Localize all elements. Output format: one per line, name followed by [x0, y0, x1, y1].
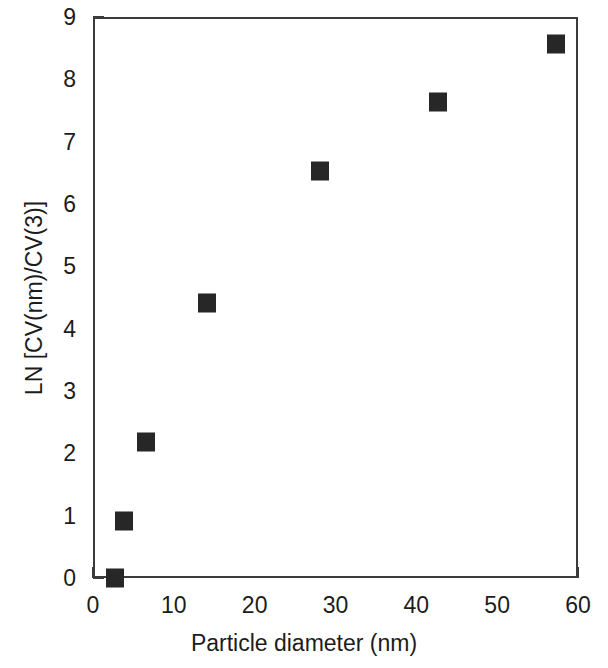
x-axis-tick-label: 30: [323, 592, 349, 619]
x-axis-tick-label: 50: [484, 592, 510, 619]
data-point: [429, 92, 447, 111]
data-point: [115, 511, 133, 530]
y-axis-tick-label: 7: [0, 128, 76, 155]
x-axis-tick-label: 0: [87, 592, 100, 619]
x-axis-tick-label: 60: [565, 592, 591, 619]
y-axis-tick-label: 1: [0, 502, 76, 529]
y-axis-tick-label: 3: [0, 378, 76, 405]
x-axis-tick-label: 40: [404, 592, 430, 619]
x-axis-title: Particle diameter (nm): [0, 630, 608, 657]
data-point: [198, 294, 216, 313]
data-point: [137, 433, 155, 452]
plot-area: [93, 17, 578, 578]
y-axis-title: LN [CV(nm)/CV(3)]: [21, 201, 48, 395]
scatter-chart-figure: LN [CV(nm)/CV(3)] 0123456789 01020304050…: [0, 0, 608, 668]
y-axis-tick-label: 0: [0, 565, 76, 592]
y-axis-tick-label: 4: [0, 315, 76, 342]
y-axis-tick-label: 6: [0, 191, 76, 218]
data-point: [547, 34, 565, 53]
y-axis-tick-label: 2: [0, 440, 76, 467]
x-axis-tick-label: 20: [242, 592, 268, 619]
x-axis-tick-label: 10: [161, 592, 187, 619]
y-axis-tick-label: 8: [0, 66, 76, 93]
data-point: [311, 162, 329, 181]
data-point: [106, 569, 124, 588]
y-axis-tick-label: 9: [0, 4, 76, 31]
y-axis-tick-label: 5: [0, 253, 76, 280]
